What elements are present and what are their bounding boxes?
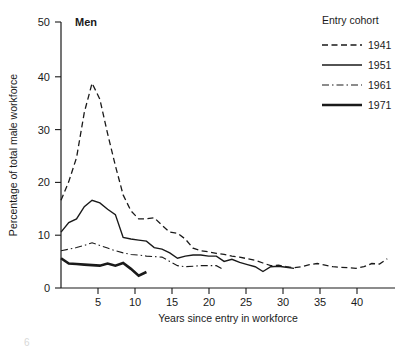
legend-label-1961: 1961 — [368, 79, 392, 91]
legend-title: Entry cohort — [322, 14, 379, 26]
y-tick-label-30: 30 — [38, 124, 50, 136]
x-axis-ticks — [98, 288, 357, 294]
x-tick-label-10: 10 — [129, 296, 141, 308]
legend-label-1951: 1951 — [368, 59, 392, 71]
x-tick-label-5: 5 — [95, 296, 101, 308]
figure-container: 0 10 20 30 40 50 5 10 15 20 25 30 35 40 … — [0, 0, 408, 349]
legend-entries: 1941195119611971 — [322, 39, 392, 111]
x-tick-label-20: 20 — [203, 296, 215, 308]
y-tick-label-10: 10 — [38, 229, 50, 241]
x-axis-title: Years since entry in workforce — [158, 312, 298, 324]
panel-label: Men — [75, 16, 97, 28]
y-tick-label-50: 50 — [38, 16, 50, 28]
legend-label-1971: 1971 — [368, 99, 392, 111]
y-axis-ticks — [55, 22, 61, 288]
y-axis-title: Percentage of total male workforce — [7, 74, 19, 236]
y-tick-label-0: 0 — [44, 282, 50, 294]
series-line-1941 — [61, 83, 387, 268]
page-artifact: 6 — [24, 337, 30, 348]
series-line-1951 — [61, 200, 294, 271]
y-tick-label-20: 20 — [38, 176, 50, 188]
series-line-1971 — [61, 258, 146, 276]
x-tick-label-25: 25 — [240, 296, 252, 308]
x-tick-label-30: 30 — [277, 296, 289, 308]
line-chart: 0 10 20 30 40 50 5 10 15 20 25 30 35 40 … — [0, 0, 408, 349]
x-tick-label-15: 15 — [166, 296, 178, 308]
data-series-group — [61, 83, 387, 276]
y-tick-label-40: 40 — [38, 71, 50, 83]
legend: Entry cohort 1941195119611971 — [322, 14, 392, 111]
x-tick-label-35: 35 — [314, 296, 326, 308]
x-tick-label-40: 40 — [351, 296, 363, 308]
legend-label-1941: 1941 — [368, 39, 392, 51]
